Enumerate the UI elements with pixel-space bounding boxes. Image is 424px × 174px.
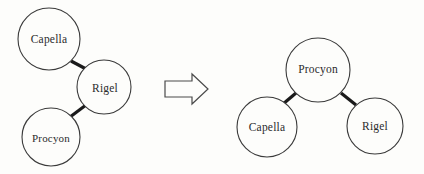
node-procyon-right[interactable]	[286, 38, 350, 102]
node-capella-right[interactable]	[237, 97, 297, 157]
edge-procyon-rigel	[341, 93, 356, 105]
node-procyon-left[interactable]	[22, 108, 80, 166]
after-graph	[237, 38, 403, 157]
node-rigel-right[interactable]	[347, 98, 403, 154]
node-rigel-left[interactable]	[77, 60, 131, 114]
node-capella-left[interactable]	[18, 8, 80, 70]
before-graph	[18, 8, 131, 166]
edge-rigel-procyon	[70, 105, 86, 117]
arrow-right-icon	[165, 74, 208, 104]
diagram-canvas: Capella Rigel Procyon Procyon Capella Ri…	[0, 0, 424, 174]
transform-arrow	[165, 74, 208, 104]
diagram-svg	[0, 0, 424, 174]
